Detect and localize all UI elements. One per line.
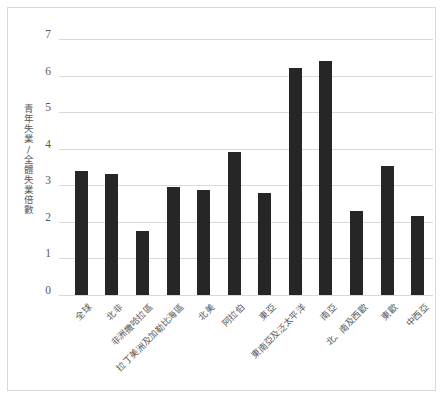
x-axis-tick-label: 東歐 <box>378 301 400 323</box>
bar-slot <box>280 39 311 295</box>
y-tick-label: 3 <box>23 180 51 181</box>
x-axis-tick-label: 南亞 <box>317 301 339 323</box>
y-axis-title: 青年失業/全體失業倍數 <box>21 104 35 215</box>
bar[interactable] <box>197 190 210 295</box>
y-tick-label: 7 <box>23 34 51 35</box>
bar-slot <box>219 39 250 295</box>
y-tick-mark <box>59 258 66 259</box>
y-tick-label: 0 <box>23 290 51 291</box>
chart-container: 青年失業/全體失業倍數 76543210 全球北非非洲撒哈拉區拉丁美洲及加勒比海… <box>7 7 436 391</box>
bar[interactable] <box>350 211 363 295</box>
bar-slot <box>341 39 372 295</box>
bar[interactable] <box>381 166 394 295</box>
bar[interactable] <box>228 152 241 295</box>
y-tick-mark <box>59 149 66 150</box>
y-tick-label: 2 <box>23 217 51 218</box>
y-tick-mark <box>59 185 66 186</box>
y-tick-mark <box>59 295 66 296</box>
bar[interactable] <box>411 216 424 295</box>
bar[interactable] <box>75 171 88 295</box>
bar-slot <box>66 39 97 295</box>
bar-slot <box>97 39 128 295</box>
x-axis-labels: 全球北非非洲撒哈拉區拉丁美洲及加勒比海區北美阿拉伯東亞東南亞及泛太平洋南亞北、南… <box>66 297 433 400</box>
bar-slot <box>402 39 433 295</box>
y-tick-label: 5 <box>23 107 51 108</box>
y-tick-mark <box>59 76 66 77</box>
bar-slot <box>311 39 342 295</box>
y-tick-label: 6 <box>23 71 51 72</box>
x-axis-tick-label: 北美 <box>195 301 217 323</box>
x-axis-line <box>66 295 433 296</box>
bar[interactable] <box>319 61 332 295</box>
bar[interactable] <box>105 174 118 295</box>
bar-slot <box>372 39 403 295</box>
x-axis-tick-label: 阿拉伯 <box>219 301 247 329</box>
bar[interactable] <box>167 187 180 295</box>
bar-slot <box>188 39 219 295</box>
y-tick-label: 1 <box>23 253 51 254</box>
bar-slot <box>158 39 189 295</box>
x-axis-tick-label: 北非 <box>103 301 125 323</box>
x-axis-tick-label: 東亞 <box>256 301 278 323</box>
y-tick-mark <box>59 112 66 113</box>
bar-series <box>66 39 433 295</box>
y-tick-mark <box>59 39 66 40</box>
bar-slot <box>249 39 280 295</box>
x-axis-tick-label: 全球 <box>73 301 95 323</box>
bar[interactable] <box>136 231 149 295</box>
bar-slot <box>127 39 158 295</box>
plot-area: 76543210 <box>59 39 433 295</box>
x-axis-tick-label: 中西亞 <box>403 301 431 329</box>
y-tick-label: 4 <box>23 144 51 145</box>
bar[interactable] <box>258 193 271 295</box>
bar[interactable] <box>289 68 302 295</box>
x-axis-tick-label: 東南亞及泛太平洋 <box>248 301 308 361</box>
y-tick-mark <box>59 222 66 223</box>
